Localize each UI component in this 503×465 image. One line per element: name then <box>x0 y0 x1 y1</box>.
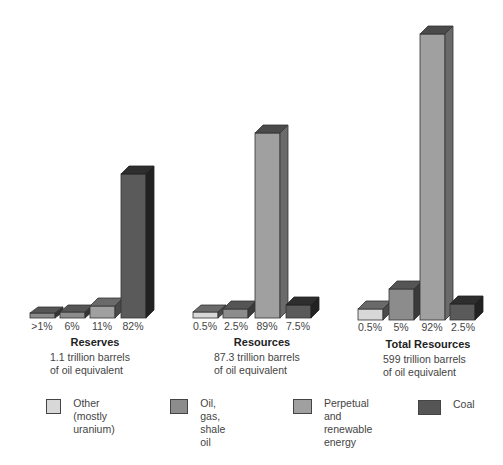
group-reserves-bars <box>30 166 154 318</box>
legend-item-other: Other (mostly uranium) <box>46 397 122 436</box>
legend-label: Coal <box>453 398 475 411</box>
subtitle-line: of oil equivalent <box>214 364 300 377</box>
pct-label: 11% <box>85 320 119 332</box>
bar-resources-other <box>193 305 226 318</box>
group-resources-bars <box>193 125 319 318</box>
pct-label: 82% <box>116 320 150 332</box>
bar-total-renewable <box>420 26 453 320</box>
subtitle-line: 1.1 trillion barrels <box>50 351 130 364</box>
legend-swatch <box>418 400 441 415</box>
pct-label: 0.5% <box>188 320 222 332</box>
bar-total-oil <box>389 281 422 320</box>
group-title-reserves: Reserves <box>45 336 145 348</box>
pct-label: 6% <box>55 320 89 332</box>
pct-label: >1% <box>25 320 59 332</box>
legend-label: Perpetual and renewable energy <box>324 397 377 449</box>
bar-reserves-oil <box>60 305 93 318</box>
bars-layer <box>0 0 503 465</box>
group-title-resources: Resources <box>212 336 312 348</box>
energy-chart: >1% 6% 11% 82% 0.5% 2.5% 89% 7.5% 0.5% 5… <box>0 0 503 465</box>
pct-label: 5% <box>384 321 418 333</box>
bar-resources-oil <box>223 301 256 318</box>
bar-resources-renewable <box>255 125 288 318</box>
pct-label: 89% <box>250 320 284 332</box>
group-subtitle-total: 599 trillion barrels of oil equivalent <box>383 353 466 379</box>
bar-total-other <box>358 301 391 320</box>
pct-label: 0.5% <box>353 321 387 333</box>
subtitle-line: of oil equivalent <box>383 366 466 379</box>
legend-item-coal: Coal <box>418 398 475 415</box>
bar-total-coal <box>450 296 483 320</box>
legend-swatch <box>293 399 312 414</box>
legend-swatch <box>46 399 61 414</box>
subtitle-line: 87.3 trillion barrels <box>214 351 300 364</box>
legend-item-renewable: Perpetual and renewable energy <box>293 397 376 449</box>
bar-reserves-other <box>30 307 63 318</box>
bar-resources-coal <box>286 297 319 318</box>
group-total-bars <box>358 26 483 320</box>
group-title-total: Total Resources <box>368 338 488 350</box>
legend-item-oil: Oil, gas, shale oil <box>170 397 230 449</box>
subtitle-line: 599 trillion barrels <box>383 353 466 366</box>
legend-label: Oil, gas, shale oil <box>200 397 230 449</box>
legend-swatch <box>170 399 188 414</box>
subtitle-line: of oil equivalent <box>50 364 130 377</box>
pct-label: 7.5% <box>281 320 315 332</box>
pct-label: 92% <box>415 321 449 333</box>
pct-label: 2.5% <box>446 321 480 333</box>
group-subtitle-resources: 87.3 trillion barrels of oil equivalent <box>214 351 300 377</box>
bar-reserves-renewable <box>90 298 123 318</box>
pct-label: 2.5% <box>219 320 253 332</box>
legend-label: Other (mostly uranium) <box>73 397 122 436</box>
bar-reserves-coal <box>121 166 154 318</box>
group-subtitle-reserves: 1.1 trillion barrels of oil equivalent <box>50 351 130 377</box>
